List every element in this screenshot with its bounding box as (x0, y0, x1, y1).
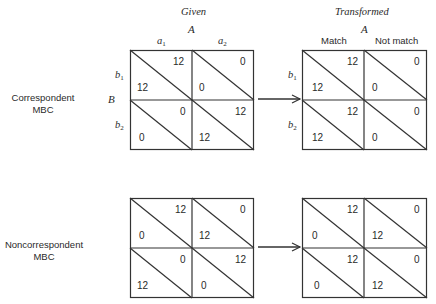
arrow-right-icon (258, 94, 302, 104)
transformed-row-b1: b1 (288, 69, 297, 82)
cell-upper: 12 (347, 106, 358, 117)
cell-upper: 0 (180, 254, 186, 265)
given-factor-a-label: A (188, 23, 195, 35)
cell-lower: 0 (314, 280, 320, 291)
row-label-correspondent: Correspondent MBC (10, 92, 76, 116)
given-row-b1: b1 (115, 69, 124, 82)
grid-lines (302, 198, 427, 298)
transformed-title: Transformed (335, 6, 389, 17)
cell-upper: 12 (235, 254, 246, 265)
row-label-line1: Noncorrespondent (4, 239, 84, 251)
cell-lower: 0 (372, 82, 378, 93)
row-label-line2: MBC (4, 251, 84, 263)
transformed-factor-a-label: A (361, 23, 368, 35)
cell-upper: 12 (173, 56, 184, 67)
row-label-line2: MBC (10, 104, 76, 116)
cell-upper: 0 (414, 106, 420, 117)
cell-lower: 0 (139, 230, 145, 241)
cell-upper: 0 (414, 254, 420, 265)
cell-lower: 0 (139, 132, 145, 143)
cell-lower: 0 (312, 230, 318, 241)
cell-upper: 0 (240, 56, 246, 67)
cell-lower: 12 (372, 280, 383, 291)
row-sub: 2 (120, 124, 124, 132)
factor-b-label: B (108, 93, 115, 105)
transformed-column-match: Match (321, 35, 347, 46)
cell-lower: 12 (199, 132, 210, 143)
cell-lower: 12 (199, 230, 210, 241)
grid-lines (130, 198, 254, 298)
row-sub: 2 (293, 124, 297, 132)
transformed-row-b2: b2 (288, 119, 297, 132)
cell-lower: 12 (312, 132, 323, 143)
given-title: Given (181, 6, 206, 17)
cell-lower: 12 (137, 82, 148, 93)
row-label-line1: Correspondent (10, 92, 76, 104)
cell-upper: 12 (175, 204, 186, 215)
transformed-column-not-match: Not match (375, 35, 418, 46)
cell-upper: 0 (414, 204, 420, 215)
cell-lower: 12 (137, 280, 148, 291)
cell-lower: 0 (201, 280, 207, 291)
grid-correspondent-given: 12 12 0 0 0 0 12 12 (130, 50, 254, 150)
cell-upper: 0 (240, 204, 246, 215)
arrow-right-icon (258, 242, 302, 252)
column-sub: 2 (223, 40, 227, 48)
cell-lower: 0 (372, 132, 378, 143)
column-sub: 1 (162, 40, 166, 48)
cell-upper: 0 (180, 106, 186, 117)
cell-upper: 12 (347, 56, 358, 67)
given-column-a2: a2 (218, 35, 227, 48)
cell-lower: 0 (199, 82, 205, 93)
row-sub: 1 (120, 74, 124, 82)
grid-noncorrespondent-transformed: 12 0 0 12 12 0 0 12 (302, 198, 427, 298)
cell-lower: 12 (312, 82, 323, 93)
grid-lines (130, 50, 254, 150)
given-row-b2: b2 (115, 119, 124, 132)
cell-upper: 12 (347, 204, 358, 215)
cell-upper: 12 (347, 254, 358, 265)
cell-lower: 12 (372, 230, 383, 241)
row-label-noncorrespondent: Noncorrespondent MBC (4, 239, 84, 263)
given-column-a1: a1 (157, 35, 166, 48)
row-sub: 1 (293, 74, 297, 82)
cell-upper: 0 (414, 56, 420, 67)
grid-correspondent-transformed: 12 12 0 0 12 12 0 0 (302, 50, 427, 150)
grid-noncorrespondent-given: 12 0 0 12 0 12 12 0 (130, 198, 254, 298)
cell-upper: 12 (235, 106, 246, 117)
